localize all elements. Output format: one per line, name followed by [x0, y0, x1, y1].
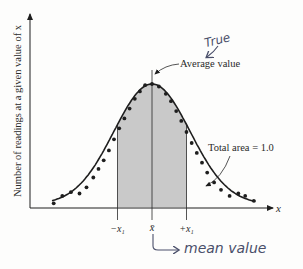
data-point — [236, 192, 240, 196]
data-point — [150, 82, 154, 86]
data-point — [123, 117, 127, 121]
tick-label-minus-x1: −x₁ — [110, 223, 125, 234]
average-value-leader — [155, 64, 179, 74]
data-point — [164, 92, 168, 96]
data-point — [179, 119, 183, 123]
data-point — [85, 185, 89, 189]
data-point — [60, 194, 64, 198]
data-point — [107, 149, 111, 153]
normal-distribution-plot: Number of readings at a given value of x… — [0, 0, 303, 269]
data-point — [133, 97, 137, 101]
data-point — [97, 167, 101, 171]
handwritten-mean-arrow — [153, 234, 178, 250]
data-point — [195, 151, 199, 155]
data-point — [91, 176, 95, 180]
data-point — [143, 83, 147, 87]
data-point — [185, 130, 189, 134]
data-point — [228, 194, 232, 198]
data-point — [102, 158, 106, 162]
total-area-leader — [206, 156, 230, 186]
data-point — [52, 201, 56, 205]
data-point — [112, 137, 116, 141]
data-point — [200, 161, 204, 165]
average-value-label: Average value — [180, 58, 240, 69]
data-point — [117, 126, 121, 130]
data-point — [78, 192, 82, 196]
tick-label-mean: x̄ — [149, 222, 155, 233]
data-point — [157, 85, 161, 89]
data-point — [190, 141, 194, 145]
data-point — [128, 107, 132, 111]
data-point — [138, 90, 142, 94]
x-axis-label: x — [275, 202, 281, 214]
total-area-label: Total area = 1.0 — [208, 142, 274, 153]
handwritten-mean-value: mean value — [184, 240, 266, 256]
data-point — [205, 171, 209, 175]
y-axis-label: Number of readings at a given value of x — [12, 24, 23, 197]
data-point — [169, 99, 173, 103]
data-point — [252, 199, 256, 203]
figure: Number of readings at a given value of x… — [0, 0, 303, 269]
tick-label-plus-x1: +x₁ — [179, 223, 194, 234]
data-point — [69, 190, 73, 194]
data-point — [243, 194, 247, 198]
data-point — [219, 188, 223, 192]
data-point — [174, 109, 178, 113]
